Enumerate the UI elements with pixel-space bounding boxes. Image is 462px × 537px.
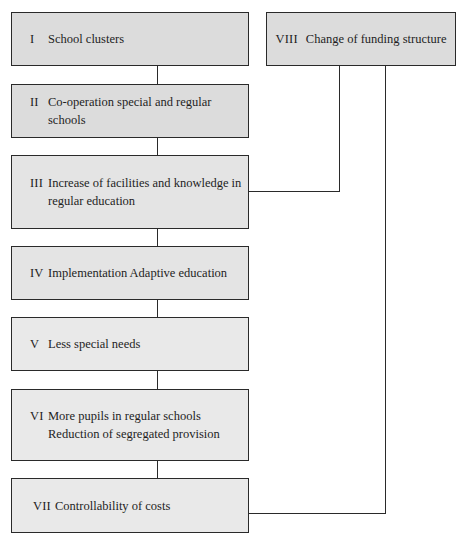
step-box-i: I School clusters	[11, 12, 249, 66]
step-box-vi: VI More pupils in regular schools Reduct…	[11, 389, 249, 461]
connector-viii-vii-horizontal	[248, 513, 386, 514]
connector-vi-vii	[157, 460, 158, 478]
step-box-ii: II Co-operation special and regular scho…	[11, 84, 249, 138]
step-numeral: V	[12, 335, 48, 353]
step-box-iii: III Increase of facilities and knowledge…	[11, 155, 249, 229]
step-label-line-1: More pupils in regular schools	[48, 407, 220, 425]
connector-v-vi	[157, 370, 158, 389]
step-label: Less special needs	[48, 335, 140, 353]
step-label-line-2: Reduction of segregated provision	[48, 425, 220, 443]
connector-i-ii	[157, 65, 158, 84]
connector-viii-vii-vertical	[385, 65, 386, 514]
step-numeral: II	[12, 93, 48, 111]
step-label: Implementation Adaptive education	[48, 264, 227, 282]
step-numeral: VII	[12, 497, 55, 515]
step-box-vii: VII Controllability of costs	[11, 478, 249, 533]
step-numeral: III	[12, 174, 48, 192]
step-numeral: I	[12, 30, 48, 48]
step-label: Co-operation special and regular schools	[48, 93, 248, 129]
connector-iv-v	[157, 299, 158, 317]
step-numeral: VI	[12, 407, 48, 425]
connector-iii-iv	[157, 228, 158, 246]
step-label: Controllability of costs	[55, 497, 170, 515]
step-numeral: IV	[12, 264, 48, 282]
step-box-iv: IV Implementation Adaptive education	[11, 246, 249, 300]
side-label: Change of funding structure	[306, 30, 447, 48]
step-box-v: V Less special needs	[11, 317, 249, 371]
connector-viii-iii-horizontal	[248, 191, 340, 192]
connector-ii-iii	[157, 137, 158, 155]
side-box-viii: VIII Change of funding structure	[266, 12, 456, 66]
connector-viii-iii-vertical	[339, 65, 340, 192]
step-label-line-2: regular education	[48, 192, 241, 210]
side-numeral: VIII	[276, 30, 298, 48]
step-label-line-1: Increase of facilities and knowledge in	[48, 174, 241, 192]
step-label: School clusters	[48, 30, 124, 48]
